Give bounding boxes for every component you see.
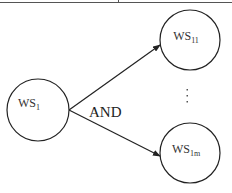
- node-ws1m-subscript: 1m: [190, 149, 201, 158]
- vertical-ellipsis-icon: [187, 89, 189, 103]
- decomposition-diagram: WS1 WS11 WS1m AND: [0, 0, 232, 193]
- node-ws1m: WS1m: [160, 123, 220, 183]
- top-border: [0, 0, 232, 3]
- node-ws11-subscript: 11: [191, 36, 199, 45]
- node-ws1m-label: WS: [172, 142, 190, 156]
- node-ws1-label: WS: [18, 96, 36, 110]
- and-relation-label: AND: [89, 104, 122, 120]
- node-ws11: WS11: [160, 10, 220, 70]
- node-ws1-subscript: 1: [36, 103, 40, 112]
- node-ws11-label: WS: [173, 29, 191, 43]
- node-ws1: WS1: [7, 79, 69, 141]
- edge-ws1-to-ws11: [69, 45, 160, 110]
